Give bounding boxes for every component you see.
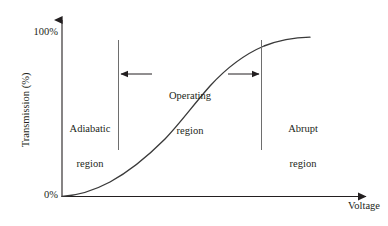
annotation-operating-region: Operating region	[150, 66, 230, 160]
adiabatic-line-1: Adiabatic	[62, 123, 118, 135]
y-tick-label-0: 0%	[0, 189, 58, 201]
annotation-adiabatic-region: Adiabatic region	[62, 99, 118, 193]
y-tick-label-100: 100%	[0, 26, 58, 38]
operating-line-1: Operating	[150, 90, 230, 102]
chart-figure: 100% 0% Transmission (%) Voltage Adiabat…	[0, 0, 388, 226]
abrupt-line-2: region	[272, 158, 334, 170]
y-axis-title: Transmission (%)	[20, 43, 32, 177]
annotation-abrupt-region: Abrupt region	[272, 99, 334, 193]
x-axis-title: Voltage	[300, 200, 380, 212]
operating-line-2: region	[150, 125, 230, 137]
abrupt-line-1: Abrupt	[272, 123, 334, 135]
adiabatic-line-2: region	[62, 158, 118, 170]
